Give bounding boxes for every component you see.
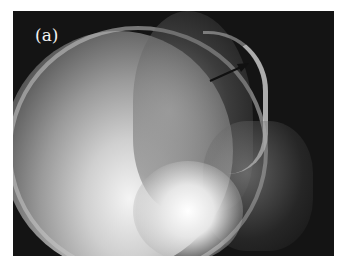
arrow-icon: [13, 11, 334, 256]
skull-xray-image: (a): [13, 11, 334, 256]
figure-label: (a): [35, 25, 58, 45]
